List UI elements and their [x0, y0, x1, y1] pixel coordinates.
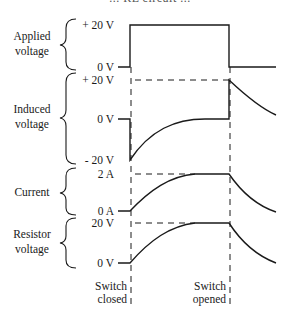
tick-resistor-0v: 0 V — [74, 257, 114, 269]
resistor-voltage-label: Resistor voltage — [6, 227, 58, 257]
tick-induced-0: 0 V — [74, 113, 114, 125]
tick-induced-plus20: + 20 V — [74, 74, 114, 86]
current-label: Current — [6, 185, 58, 200]
induced-voltage-curve — [118, 80, 276, 160]
induced-voltage-label: Induced voltage — [6, 102, 58, 132]
rl-transient-diagram: ... RL circuit ... A — [0, 0, 295, 324]
tick-resistor-20v: 20 V — [74, 217, 114, 229]
tick-applied-plus20: + 20 V — [74, 19, 114, 31]
applied-voltage-curve — [118, 25, 276, 67]
resistor-voltage-curve — [118, 223, 276, 263]
switch-closed-label: Switch closed — [91, 280, 127, 306]
switch-opened-label: Switch opened — [184, 280, 226, 306]
tick-current-2a: 2 A — [74, 168, 114, 180]
current-curve — [118, 174, 276, 212]
tick-current-0a: 0 A — [74, 205, 114, 217]
tick-applied-0: 0 V — [74, 61, 114, 73]
tick-induced-minus20: - 20 V — [74, 154, 114, 166]
applied-voltage-label: Applied voltage — [6, 29, 58, 59]
